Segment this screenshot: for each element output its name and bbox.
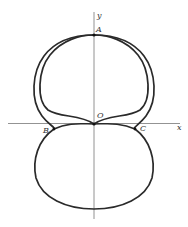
point-b xyxy=(53,128,56,131)
diagram-canvas xyxy=(0,0,188,227)
point-c xyxy=(134,128,137,131)
y-axis-label: y xyxy=(97,12,102,20)
label-a: A xyxy=(96,26,102,34)
point-o xyxy=(92,122,95,125)
label-b: B xyxy=(43,127,49,135)
inner-lobe-left xyxy=(54,124,94,129)
label-o: O xyxy=(97,112,104,120)
label-c: C xyxy=(140,125,146,133)
x-axis-label: x xyxy=(177,124,182,132)
inner-lobe-right xyxy=(94,124,135,129)
